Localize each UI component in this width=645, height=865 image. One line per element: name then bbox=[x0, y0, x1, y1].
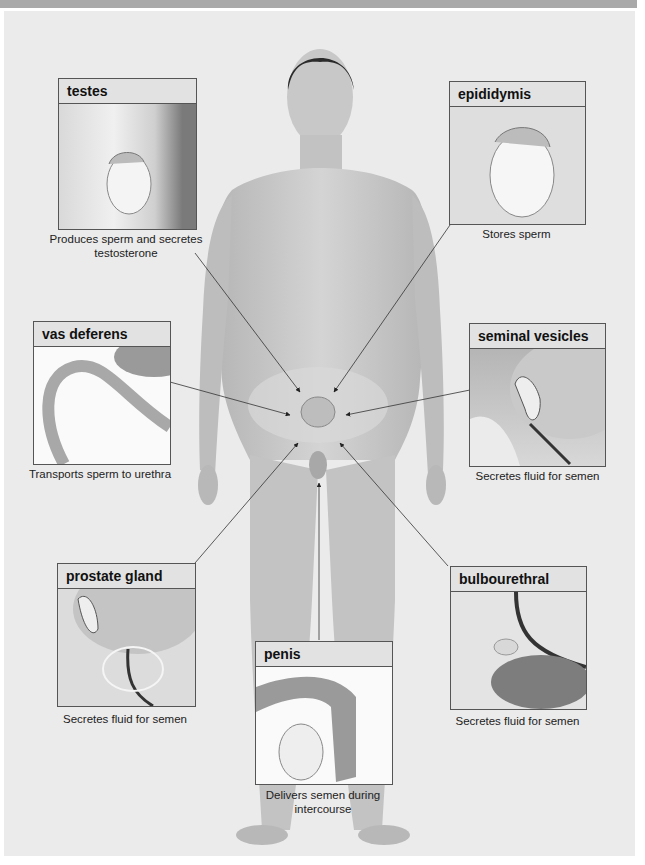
organ-label: bulbourethral gland bbox=[451, 567, 586, 592]
organ-box-seminal-vesicles: seminal vesicles bbox=[469, 323, 606, 467]
organ-box-vas-deferens: vas deferens bbox=[33, 321, 171, 465]
organ-function-seminal-vesicles: Secretes fluid for semen bbox=[465, 469, 610, 483]
organ-label: seminal vesicles bbox=[470, 324, 605, 349]
organ-function-prostate-gland: Secretes fluid for semen bbox=[45, 712, 205, 726]
penis-illustration bbox=[256, 667, 392, 784]
epididymis-illustration bbox=[450, 107, 585, 224]
bulbourethral-gland-illustration bbox=[451, 592, 586, 709]
testes-illustration bbox=[59, 104, 196, 229]
prostate-gland-illustration bbox=[58, 589, 195, 706]
organ-box-penis: penis bbox=[255, 641, 393, 785]
organ-box-bulbourethral-gland: bulbourethral gland bbox=[450, 566, 587, 710]
organ-label: penis bbox=[256, 642, 392, 667]
organ-label: prostate gland bbox=[58, 564, 195, 589]
organ-function-penis: Delivers semen during intercourse bbox=[245, 788, 401, 816]
organ-label: testes bbox=[59, 79, 196, 104]
organ-label: vas deferens bbox=[34, 322, 170, 347]
organ-box-prostate-gland: prostate gland bbox=[57, 563, 196, 707]
organ-function-bulbourethral-gland: Secretes fluid for semen bbox=[440, 714, 595, 728]
organ-label: epididymis bbox=[450, 82, 585, 107]
vas-deferens-illustration bbox=[34, 347, 170, 464]
organ-box-testes: testes bbox=[58, 78, 197, 230]
organ-function-vas-deferens: Transports sperm to urethra bbox=[20, 467, 180, 481]
organ-box-epididymis: epididymis bbox=[449, 81, 586, 225]
organ-function-epididymis: Stores sperm bbox=[449, 227, 584, 241]
organ-function-testes: Produces sperm and secretes testosterone bbox=[40, 232, 212, 260]
seminal-vesicles-illustration bbox=[470, 349, 605, 466]
